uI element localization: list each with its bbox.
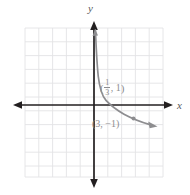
fraction-denominator: 3: [104, 89, 110, 97]
graph-figure: x y (13, 1) (3, −1): [0, 0, 190, 195]
y-axis-label: y: [88, 3, 93, 14]
point-label-lower: (3, −1): [92, 119, 119, 129]
point-marker-lower: [132, 117, 136, 121]
point-label-upper-y: , 1: [111, 82, 121, 93]
x-axis-label: x: [177, 100, 182, 111]
fraction-one-third: 13: [104, 79, 110, 98]
paren-close: ): [121, 82, 125, 94]
coordinate-plane-svg: [0, 0, 190, 195]
paren-open: (: [100, 82, 104, 94]
point-label-upper: (13, 1): [100, 79, 124, 98]
fraction-numerator: 1: [104, 79, 110, 87]
